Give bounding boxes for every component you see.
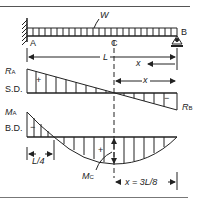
ra-label: RA (5, 67, 16, 76)
point-c-label: C (111, 39, 118, 48)
mc-label: MC (82, 172, 94, 181)
shear-diagram (27, 69, 177, 110)
ma-label: MA (5, 108, 17, 117)
x-label-shear: x (143, 76, 148, 85)
length-label: L (102, 53, 109, 62)
load-label: W (100, 11, 109, 20)
rb-label: RB (182, 103, 193, 112)
point-b-label: B (181, 28, 187, 37)
beam (27, 28, 177, 36)
x-label-top: x (136, 59, 141, 68)
pin-support-icon (171, 36, 183, 46)
quarter-length-label: L/4 (32, 157, 45, 166)
shear-minus-sign: − (164, 94, 169, 103)
shear-plus-sign: + (36, 76, 41, 85)
x-eq-label: x = 3L/8 (124, 178, 158, 187)
moment-diagram-label: B.D. (5, 124, 23, 133)
moment-diagram (27, 112, 177, 164)
shear-diagram-label: S.D. (5, 85, 23, 94)
point-a-label: A (30, 39, 36, 48)
moment-plus-sign: + (98, 146, 103, 155)
load-leader (94, 19, 99, 28)
beam-diagram: W A C B L x x RA S.D. + − RB MA B.D. − +… (0, 0, 199, 202)
moment-minus-sign: − (30, 123, 35, 132)
fixed-wall-icon (22, 18, 27, 45)
